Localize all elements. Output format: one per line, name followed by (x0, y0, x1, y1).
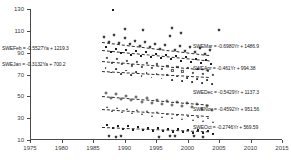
y-tick-label: 110 (2, 28, 24, 34)
data-point (121, 111, 123, 113)
data-point (212, 74, 214, 76)
data-point (161, 68, 163, 70)
data-point (126, 59, 128, 61)
data-point (191, 81, 193, 83)
x-tick-mark (156, 140, 157, 143)
data-point (190, 61, 192, 63)
data-point (141, 75, 143, 77)
y-tick-mark (27, 53, 30, 54)
x-tick-label: 1975 (23, 145, 36, 151)
swe-trend-scatter-chart: 1030507090110130 19751980198519901995200… (0, 0, 291, 160)
data-point (170, 104, 173, 107)
data-point (180, 105, 183, 108)
data-point (125, 49, 127, 51)
data-point (125, 70, 127, 72)
y-tick-mark (27, 9, 30, 10)
x-tick-label: 2015 (275, 145, 288, 151)
y-tick-label: 130 (2, 6, 24, 12)
data-point (116, 58, 118, 60)
data-point (170, 27, 173, 30)
x-tick-label: 1980 (55, 145, 68, 151)
data-point (172, 131, 174, 133)
data-point (106, 124, 108, 126)
x-tick-label: 2000 (181, 145, 194, 151)
data-point (117, 125, 119, 127)
data-point (140, 55, 142, 57)
data-point (170, 58, 172, 60)
data-point (113, 34, 116, 37)
data-point (178, 45, 181, 48)
regression-equation-swenov: SWENov = -0.4592Yr + 951.56 (193, 107, 259, 112)
data-point (125, 94, 128, 97)
data-point (105, 67, 107, 69)
data-point (168, 35, 171, 38)
y-tick-label: 50 (2, 93, 24, 99)
regression-equation-swemar: SWEMar = -0.6980Yr + 1486.9 (193, 44, 259, 49)
data-point (106, 57, 108, 59)
data-point (201, 82, 203, 84)
x-tick-mark (188, 140, 189, 143)
data-point (142, 28, 145, 31)
data-point (202, 73, 204, 75)
data-point (123, 37, 126, 40)
data-point (180, 60, 182, 62)
data-point (141, 66, 143, 68)
data-point (192, 119, 194, 121)
data-point (119, 135, 122, 138)
data-point (151, 115, 153, 117)
data-point (171, 117, 173, 119)
data-point (189, 45, 192, 48)
data-point (115, 48, 117, 50)
x-tick-label: 1995 (149, 145, 162, 151)
data-point (201, 135, 204, 138)
y-tick-label: 10 (2, 137, 24, 143)
data-point (218, 28, 221, 31)
data-point (181, 118, 183, 120)
plot-area: 1030507090110130 19751980198519901995200… (30, 9, 282, 140)
data-point (207, 117, 209, 119)
data-point (212, 133, 214, 135)
data-point (196, 78, 198, 80)
data-point (153, 42, 156, 45)
data-point (143, 40, 146, 43)
data-point (171, 69, 173, 71)
data-point (161, 116, 163, 118)
data-point (212, 121, 214, 123)
data-point (160, 57, 162, 59)
data-point (135, 50, 137, 52)
data-point (131, 74, 133, 76)
data-point (160, 102, 163, 105)
data-point (181, 70, 183, 72)
x-tick-mark (251, 140, 252, 143)
data-point (151, 77, 153, 79)
x-tick-label: 2005 (212, 145, 225, 151)
data-point (105, 46, 107, 48)
data-point (163, 44, 166, 47)
x-tick-mark (125, 140, 126, 143)
x-tick-label: 1990 (118, 145, 131, 151)
data-point (106, 106, 108, 108)
data-point (202, 120, 204, 122)
y-tick-mark (27, 96, 30, 97)
data-point (107, 134, 110, 137)
data-point (103, 35, 106, 38)
data-point (112, 9, 114, 11)
data-point (115, 68, 117, 70)
data-point (150, 56, 152, 58)
data-point (145, 51, 147, 53)
data-point (191, 72, 193, 74)
y-tick-mark (27, 31, 30, 32)
data-point (150, 101, 153, 104)
data-point (211, 83, 213, 85)
data-point (158, 135, 161, 138)
data-point (141, 113, 143, 115)
x-tick-mark (93, 140, 94, 143)
data-point (206, 79, 208, 81)
data-point (173, 135, 176, 138)
y-tick-mark (27, 75, 30, 76)
y-tick-mark (27, 118, 30, 119)
data-point (123, 27, 126, 30)
x-tick-label: 2010 (244, 145, 257, 151)
y-axis-line (30, 9, 31, 140)
data-point (114, 136, 117, 139)
